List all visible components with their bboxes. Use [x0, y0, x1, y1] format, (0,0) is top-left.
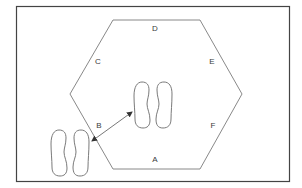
diagram-canvas	[0, 0, 302, 188]
label-a: A	[152, 156, 157, 164]
label-b: B	[96, 122, 101, 130]
outside-footprints-icon	[51, 130, 89, 176]
center-footprints-icon	[134, 82, 172, 128]
label-d: D	[152, 25, 158, 33]
hexagon-outline	[70, 20, 242, 169]
label-f: F	[211, 122, 216, 130]
label-e: E	[209, 58, 214, 66]
label-c: C	[95, 58, 101, 66]
